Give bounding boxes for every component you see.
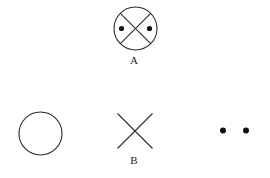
- diagram-canvas: [0, 0, 270, 178]
- figure-a-group: [114, 7, 157, 50]
- dot-pair-right-dot: [243, 128, 249, 134]
- figure-a-label: A: [114, 54, 154, 66]
- dot-pair-left-dot: [220, 128, 226, 134]
- figure-b-group: [118, 114, 153, 149]
- dot-pair-group: [220, 128, 249, 134]
- empty-circle-group: [19, 112, 62, 155]
- figure-a-right-dot: [147, 26, 152, 31]
- figure-b-label: B: [114, 154, 154, 166]
- empty-circle: [19, 112, 62, 155]
- figure-a-left-dot: [119, 26, 124, 31]
